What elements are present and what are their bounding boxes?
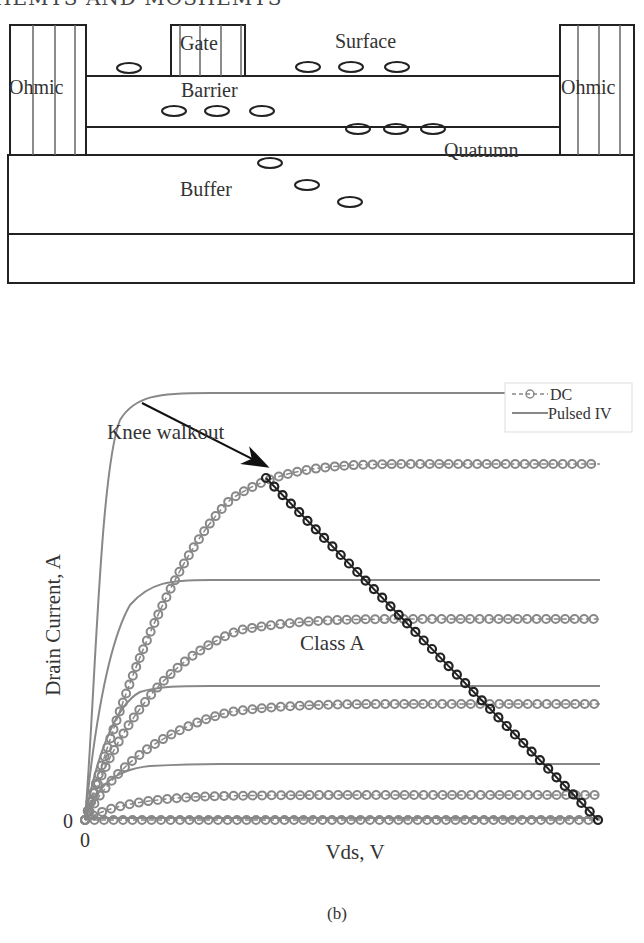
knee-walkout-label: Knee walkout (107, 420, 224, 444)
x-axis-label: Vds, V (325, 840, 384, 864)
iv-chart: Knee walkout Class A 0 0 Vds, V Drain Cu… (0, 340, 644, 943)
trap-markers (117, 62, 445, 207)
legend-dc-label: DC (550, 386, 572, 403)
ohmic-right-label: Ohmic (561, 76, 616, 98)
surface-label: Surface (335, 30, 396, 52)
buffer-label: Buffer (180, 178, 232, 200)
gate-label: Gate (180, 32, 218, 54)
chart-legend: DC Pulsed IV (505, 383, 632, 432)
device-cross-section-diagram: Ohmic Ohmic Gate Surface Barrier Quatumn… (0, 0, 644, 300)
class-a-label: Class A (300, 631, 366, 655)
figure-b-caption: (b) (327, 904, 347, 923)
buffer-layer (8, 155, 634, 283)
y-origin-label: 0 (63, 810, 73, 832)
quantum-label: Quatumn (444, 139, 518, 161)
y-axis-label: Drain Current, A (41, 553, 65, 696)
x-origin-label: 0 (80, 829, 90, 851)
legend-pulsed-label: Pulsed IV (548, 405, 612, 422)
ohmic-left-label: Ohmic (9, 76, 64, 98)
barrier-label: Barrier (181, 79, 238, 101)
